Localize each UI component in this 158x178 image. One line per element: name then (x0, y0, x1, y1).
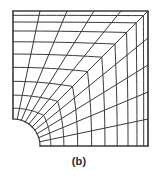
mesh-diagram (0, 0, 158, 178)
mesh-lines (13, 11, 148, 146)
figure-caption: (b) (0, 155, 158, 167)
figure-container: (b) (0, 0, 158, 178)
mesh-radial-5 (32, 11, 148, 127)
